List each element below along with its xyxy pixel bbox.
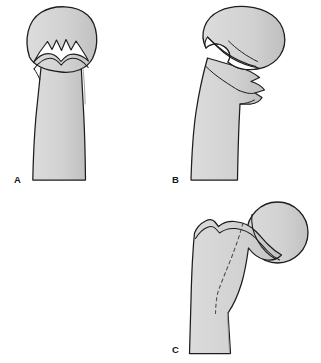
fracture-figure: A B C	[0, 0, 321, 363]
panel-a-femoral-shaft	[33, 63, 86, 180]
panel-c-label: C	[172, 344, 179, 355]
panel-a-femoral-head	[27, 7, 97, 73]
panel-b-label: B	[172, 174, 179, 185]
panel-a-label: A	[14, 174, 21, 185]
